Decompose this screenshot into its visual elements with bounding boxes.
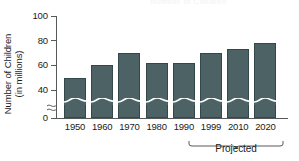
bar-break-squiggle-icon — [91, 98, 113, 105]
axis-break-icon — [46, 99, 59, 110]
projected-label: Projected — [188, 143, 284, 154]
bar-break-squiggle-icon — [200, 98, 222, 105]
y-tick-label-100: 100 — [22, 10, 48, 21]
y-tick-100 — [51, 16, 56, 17]
bar-2020 — [254, 43, 276, 118]
bar-1980 — [146, 63, 168, 118]
y-tick-40 — [51, 90, 56, 91]
x-label-2010: 2010 — [223, 121, 253, 132]
bar-1960 — [91, 65, 113, 118]
y-tick-80 — [51, 40, 56, 41]
x-label-1950: 1950 — [60, 121, 90, 132]
x-label-1999: 1999 — [196, 121, 226, 132]
y-tick-label-0: 0 — [22, 112, 48, 123]
x-label-1960: 1960 — [87, 121, 117, 132]
bar-break-squiggle-icon — [173, 98, 195, 105]
y-tick-60 — [51, 65, 56, 66]
y-tick-0 — [51, 118, 56, 119]
projected-bracket-icon — [188, 135, 284, 143]
bar-1999 — [200, 53, 222, 118]
y-tick-label-40: 40 — [22, 84, 48, 95]
bar-break-squiggle-icon — [64, 98, 86, 105]
bar-break-squiggle-icon — [146, 98, 168, 105]
bar-break-squiggle-icon — [254, 98, 276, 105]
y-axis-title-line-1: Number of Children — [2, 15, 13, 133]
bar-break-squiggle-icon — [227, 98, 249, 105]
y-axis-title: Number of Children (in millions) — [2, 15, 24, 133]
bar-1970 — [118, 53, 140, 118]
x-label-2020: 2020 — [250, 121, 280, 132]
chart-container: Number of Children Number of Children (i… — [0, 0, 299, 161]
bar-2010 — [227, 49, 249, 118]
x-label-1980: 1980 — [142, 121, 172, 132]
cropped-title-text: Number of Children — [150, 0, 290, 6]
y-tick-label-80: 80 — [22, 35, 48, 46]
x-axis-line — [56, 118, 288, 119]
bar-break-squiggle-icon — [118, 98, 140, 105]
bar-1990 — [173, 63, 195, 118]
x-label-1990: 1990 — [169, 121, 199, 132]
y-tick-label-60: 60 — [22, 59, 48, 70]
bar-1950 — [64, 78, 86, 118]
x-label-1970: 1970 — [114, 121, 144, 132]
